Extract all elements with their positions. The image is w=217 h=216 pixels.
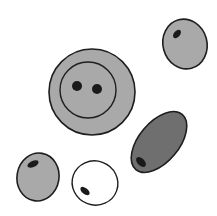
- dark-elongated-cell: [121, 102, 198, 183]
- cell-membrane: [66, 154, 124, 211]
- cell-membrane: [157, 14, 212, 74]
- cells-diagram: [0, 0, 217, 216]
- nucleus: [92, 84, 102, 94]
- nucleus: [72, 81, 82, 91]
- cell-membrane: [121, 102, 198, 183]
- cell-membrane: [13, 150, 63, 205]
- empty-cell: [66, 154, 124, 211]
- large-binucleate-cell: [49, 49, 135, 135]
- top-right-cell: [157, 14, 212, 74]
- bottom-left-cell: [13, 150, 63, 205]
